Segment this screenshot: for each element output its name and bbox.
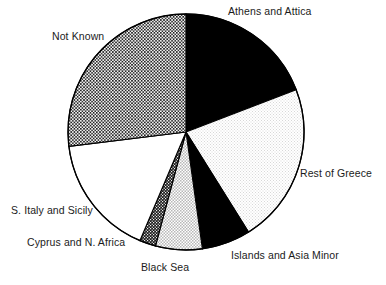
slice-label-cyprus-and-n-africa: Cyprus and N. Africa [27,236,125,248]
slice-label-athens-and-attica: Athens and Attica [228,5,311,17]
slice-label-s-italy-and-sicily: S. Italy and Sicily [11,204,93,216]
slice-label-black-sea: Black Sea [141,261,189,273]
slice-label-islands-and-asia-minor: Islands and Asia Minor [231,249,339,261]
slice-label-rest-of-greece: Rest of Greece [300,167,372,179]
pie-chart: Athens and Attica Not Known Rest of Gree… [0,0,386,285]
pie-slices [68,14,304,250]
slice-label-not-known: Not Known [52,30,104,42]
